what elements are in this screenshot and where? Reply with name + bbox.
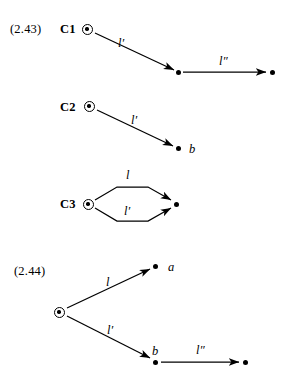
circled-dot-node-c1-source	[82, 24, 93, 35]
arrow-label-c2-l-prime: l′	[131, 114, 137, 127]
vertex-label-244-b: b	[152, 345, 158, 358]
object-label-c3: C3	[60, 198, 76, 211]
arrow-layer	[0, 0, 285, 379]
arrow-label-244-l: l	[106, 276, 109, 289]
diagram-page: (2.43) C1 l′ l″ C2 l′ b C3 l l′ (2.44) l…	[0, 0, 285, 379]
circled-dot-node-c3-source	[83, 199, 94, 210]
arrow-label-c3-l-prime: l′	[124, 205, 130, 218]
vertex-label-c2-b: b	[189, 143, 195, 156]
arrow-label-c1-l-prime: l′	[118, 37, 124, 50]
arrow-c1-l-prime	[95, 33, 174, 70]
arrow-c3-l-prime-lower	[95, 208, 171, 221]
arrow-c3-l-upper	[95, 187, 171, 200]
circled-dot-node-244-source	[54, 307, 65, 318]
dot-node-244-a	[153, 264, 158, 269]
arrow-label-c3-l: l	[126, 169, 129, 182]
arrow-label-244-l-double-prime: l″	[196, 344, 205, 357]
vertex-label-244-a: a	[168, 261, 174, 274]
dot-node-c2-target	[176, 146, 181, 151]
object-label-c1: C1	[60, 23, 76, 36]
circled-dot-node-c2-source	[84, 101, 95, 112]
arrow-label-c1-l-double-prime: l″	[219, 55, 228, 68]
dot-node-c1-middle	[176, 70, 181, 75]
object-label-c2: C2	[60, 101, 76, 114]
arrow-label-244-l-prime: l′	[107, 324, 113, 337]
equation-number-2-43: (2.43)	[10, 23, 41, 36]
dot-node-c3-target	[174, 202, 179, 207]
dot-node-244-b	[153, 360, 158, 365]
dot-node-244-target	[243, 360, 248, 365]
equation-number-2-44: (2.44)	[14, 265, 45, 278]
dot-node-c1-target	[270, 70, 275, 75]
